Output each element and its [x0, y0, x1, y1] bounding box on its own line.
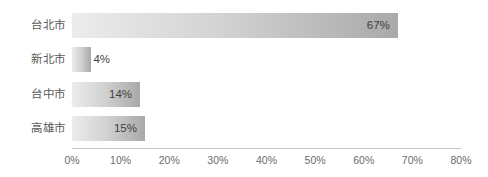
x-tick-label-7: 70% — [392, 153, 432, 167]
category-label-0: 台北市 — [0, 13, 65, 38]
bar-2[interactable]: 14% — [72, 82, 140, 107]
x-tick-label-1: 10% — [101, 153, 141, 167]
bar-row-1: 4% — [72, 47, 91, 72]
bar-0[interactable]: 67% — [72, 13, 398, 38]
x-tick-label-5: 50% — [295, 153, 335, 167]
category-label-1: 新北市 — [0, 47, 65, 72]
bar-row-3: 15% — [72, 116, 145, 141]
bar-chart: 台北市 新北市 台中市 高雄市 67% 4% 14% 15% 0%10%20%3… — [0, 0, 488, 177]
bar-value-label-1: 4% — [93, 47, 110, 72]
x-tick-label-4: 40% — [247, 153, 287, 167]
bar-1[interactable]: 4% — [72, 47, 91, 72]
x-tick-label-6: 60% — [344, 153, 384, 167]
x-tick-label-8: 80% — [441, 153, 481, 167]
x-tick-label-3: 30% — [198, 153, 238, 167]
x-tick-label-2: 20% — [149, 153, 189, 167]
bar-value-label-3: 15% — [114, 116, 137, 141]
bar-value-label-0: 67% — [367, 13, 390, 38]
category-label-3: 高雄市 — [0, 116, 65, 141]
x-tick-label-0: 0% — [52, 153, 92, 167]
bar-row-0: 67% — [72, 13, 398, 38]
bar-row-2: 14% — [72, 82, 140, 107]
bar-value-label-2: 14% — [109, 82, 132, 107]
bar-3[interactable]: 15% — [72, 116, 145, 141]
x-axis-line — [72, 148, 461, 149]
category-label-2: 台中市 — [0, 82, 65, 107]
